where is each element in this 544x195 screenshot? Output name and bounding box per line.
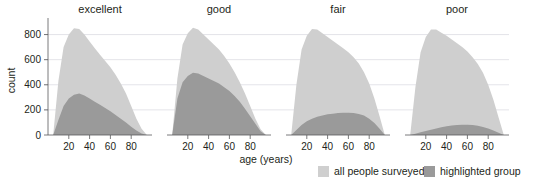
xtick-label-poor-40: 40 [441,141,453,152]
ytick-label-800: 800 [24,29,41,40]
xtick-label-fair-20: 20 [301,141,313,152]
xtick-label-good-60: 60 [224,141,236,152]
legend-swatch-all-people-surveyed [318,166,329,177]
xtick-label-excellent-40: 40 [84,141,96,152]
legend-label-all-people-surveyed: all people surveyed [334,165,425,177]
xtick-label-poor-80: 80 [483,141,495,152]
xtick-label-poor-60: 60 [462,141,474,152]
legend-item-all-people-surveyed[interactable]: all people surveyed [318,165,425,177]
legend-swatch-highlighted-group [424,166,435,177]
xtick-label-excellent-80: 80 [126,141,138,152]
xtick-label-excellent-20: 20 [63,141,75,152]
xtick-label-fair-40: 40 [322,141,334,152]
xtick-label-good-40: 40 [203,141,215,152]
faceted-area-chart: 0200400600800countexcellent20406080good2… [0,0,544,195]
xtick-label-excellent-60: 60 [105,141,117,152]
facet-title-poor: poor [446,3,468,15]
y-axis-title: count [5,68,17,94]
ytick-label-0: 0 [35,130,41,141]
xtick-label-fair-80: 80 [364,141,376,152]
xtick-label-good-80: 80 [245,141,257,152]
legend-label-highlighted-group: highlighted group [440,165,521,177]
facet-title-good: good [207,3,231,15]
xtick-label-poor-20: 20 [420,141,432,152]
facet-title-excellent: excellent [78,3,121,15]
xtick-label-good-20: 20 [182,141,194,152]
ytick-label-600: 600 [24,54,41,65]
x-axis-title: age (years) [239,153,292,165]
ytick-label-400: 400 [24,79,41,90]
ytick-label-200: 200 [24,104,41,115]
xtick-label-fair-60: 60 [343,141,355,152]
facet-title-fair: fair [330,3,346,15]
